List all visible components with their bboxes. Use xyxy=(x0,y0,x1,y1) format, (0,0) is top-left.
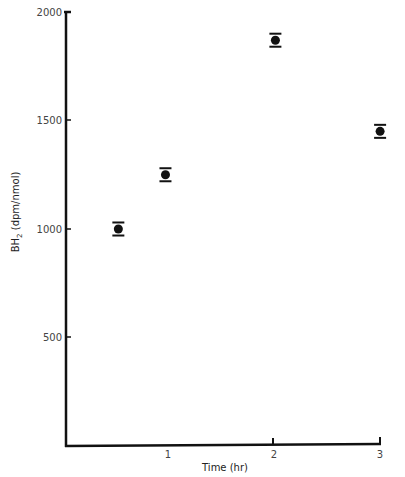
data-points xyxy=(112,34,386,236)
x-axis-title: Time (hr) xyxy=(201,462,248,473)
x-tick-label: 1 xyxy=(165,449,171,460)
y-tick-label: 2000 xyxy=(37,7,62,18)
y-axis-title: BH2 (dpm/nmol) xyxy=(10,172,24,253)
data-point xyxy=(269,34,281,47)
x-ticks: 1 2 3 xyxy=(165,437,383,460)
x-tick-label: 2 xyxy=(271,449,277,460)
y-tick-label: 1000 xyxy=(37,224,62,235)
y-tick-label: 1500 xyxy=(37,115,62,126)
marker xyxy=(161,170,170,179)
data-point xyxy=(112,222,124,235)
marker xyxy=(376,127,385,136)
x-axis xyxy=(65,444,381,446)
x-tick-label: 3 xyxy=(377,449,383,460)
marker xyxy=(114,225,123,234)
marker xyxy=(271,36,280,45)
data-point xyxy=(159,168,171,181)
y-tick-label: 500 xyxy=(43,332,62,343)
chart: 2000 1500 1000 500 1 2 3 Time (hr) BH2 (… xyxy=(0,0,405,477)
data-point xyxy=(374,125,386,138)
